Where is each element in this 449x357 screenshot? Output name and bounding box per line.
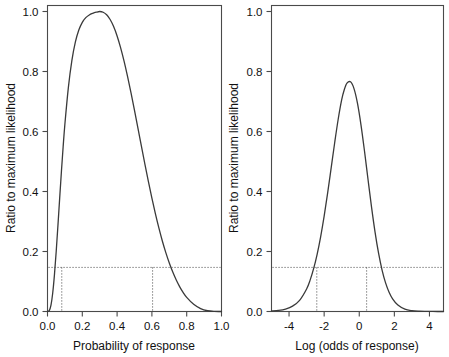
y-tick-label: 1.0	[247, 6, 263, 18]
right-plot-frame	[272, 6, 444, 312]
left-x-axis-title: Probability of response	[73, 339, 195, 353]
y-tick-label: 0.0	[23, 306, 39, 318]
x-tick-label: 0.8	[179, 320, 195, 332]
figure-canvas: 0.00.20.40.60.81.0 0.00.20.40.60.81.0 Pr…	[0, 0, 449, 357]
y-tick-label: 0.2	[247, 246, 263, 258]
x-tick-label: 0	[356, 320, 362, 332]
left-x-ticks	[48, 312, 222, 317]
right-y-ticks	[267, 12, 272, 312]
x-tick-label: 0.2	[74, 320, 90, 332]
x-tick-label: 2	[391, 320, 397, 332]
x-tick-label: 0.0	[40, 320, 56, 332]
y-tick-label: 0.0	[247, 306, 263, 318]
left-x-ticklabels: 0.00.20.40.60.81.0	[40, 320, 230, 332]
x-tick-label: 1.0	[214, 320, 230, 332]
y-tick-label: 0.4	[23, 186, 40, 198]
y-tick-label: 0.8	[23, 66, 39, 78]
right-x-ticklabels: -4-2024	[284, 320, 433, 332]
left-y-ticklabels: 0.00.20.40.60.81.0	[23, 6, 40, 318]
x-tick-label: 0.4	[109, 320, 126, 332]
right-likelihood-curve	[272, 81, 444, 311]
x-tick-label: 4	[426, 320, 433, 332]
x-tick-label: -4	[284, 320, 295, 332]
left-y-axis-title: Ratio to maximum likelihood	[4, 83, 18, 233]
likelihood-ratio-figure: 0.00.20.40.60.81.0 0.00.20.40.60.81.0 Pr…	[0, 0, 449, 357]
right-y-ticklabels: 0.00.20.40.60.81.0	[247, 6, 264, 318]
y-tick-label: 1.0	[23, 6, 39, 18]
y-tick-label: 0.6	[23, 126, 39, 138]
right-x-ticks	[289, 312, 429, 317]
right-x-axis-title: Log (odds of response)	[295, 339, 418, 353]
x-tick-label: 0.6	[144, 320, 160, 332]
x-tick-label: -2	[319, 320, 329, 332]
y-tick-label: 0.6	[247, 126, 263, 138]
probability-scale-panel: 0.00.20.40.60.81.0 0.00.20.40.60.81.0 Pr…	[4, 6, 230, 354]
left-likelihood-curve	[48, 12, 222, 312]
y-tick-label: 0.2	[23, 246, 39, 258]
y-tick-label: 0.8	[247, 66, 263, 78]
right-y-axis-title: Ratio to maximum likelihood	[227, 83, 241, 233]
y-tick-label: 0.4	[247, 186, 264, 198]
left-y-ticks	[43, 12, 48, 312]
log-odds-scale-panel: 0.00.20.40.60.81.0 -4-2024 Log (odds of …	[227, 6, 444, 354]
